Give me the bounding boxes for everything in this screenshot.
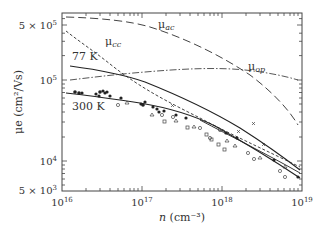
xtick-1e17: 1017 — [131, 196, 153, 208]
ytick-1e5: 105 — [40, 74, 57, 86]
data-points-filled — [73, 89, 299, 178]
xtick-1e16: 1016 — [51, 196, 73, 208]
label-mu-cc: μcc — [105, 35, 122, 49]
label-77k: 77 K — [72, 50, 98, 63]
ytick-5e3: 5 × 103 — [19, 184, 57, 196]
label-mu-op: μop — [248, 60, 265, 74]
xtick-1e18: 1018 — [211, 196, 233, 208]
ytick-1e4: 104 — [40, 155, 58, 167]
label-mu-ac: μac — [158, 18, 175, 32]
data-points-triangles — [125, 101, 287, 168]
curve-mu-cc — [66, 31, 300, 167]
mobility-chart: μac μcc 77 K μop 300 K 5 × 105 105 104 5… — [0, 0, 326, 230]
y-axis-title: μe (cm²/Vs) — [12, 70, 25, 134]
data-points-crosses — [171, 104, 265, 146]
label-300k: 300 K — [72, 100, 105, 113]
data-points-open-circles — [116, 103, 286, 178]
xtick-1e19: 1019 — [291, 196, 313, 208]
x-axis-title: n (cm⁻³) — [159, 211, 205, 224]
data-points-open-squares — [163, 120, 226, 151]
ytick-5e5: 5 × 105 — [19, 19, 57, 31]
